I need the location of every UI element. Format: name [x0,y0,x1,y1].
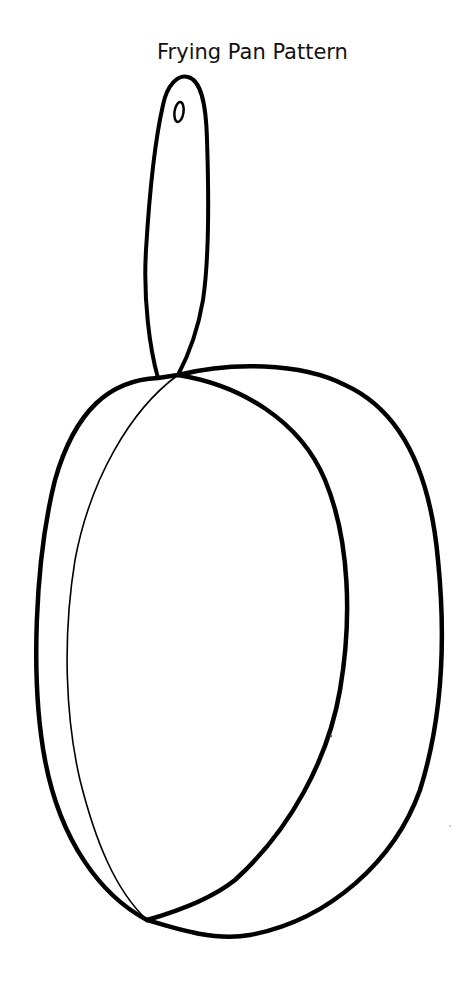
pan-outer-rim [36,366,442,936]
frying-pan-drawing [0,0,474,986]
speck-dot [330,735,332,737]
pan-inner-rim [147,375,347,920]
speck-dot [449,825,451,827]
pan-side-line [67,375,178,920]
handle-hang-hole-icon [173,101,185,122]
